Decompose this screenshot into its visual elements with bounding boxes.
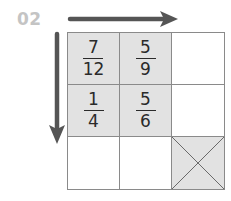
denominator: 4 bbox=[88, 111, 99, 130]
denominator: 6 bbox=[140, 111, 151, 130]
fraction: 5 9 bbox=[136, 39, 156, 79]
grid-cell-r1c3[interactable] bbox=[172, 33, 224, 85]
problem-number: 02 bbox=[17, 11, 42, 28]
fraction: 1 4 bbox=[84, 91, 104, 131]
grid-cell-r2c1: 1 4 bbox=[68, 85, 120, 137]
denominator: 12 bbox=[83, 59, 105, 78]
numerator: 1 bbox=[88, 91, 99, 110]
down-arrow-icon bbox=[49, 34, 65, 144]
right-arrow-icon bbox=[70, 11, 178, 27]
grid-cell-r2c2: 5 6 bbox=[120, 85, 172, 137]
grid-cell-r3c2[interactable] bbox=[120, 137, 172, 189]
fraction-grid: 7 12 5 9 1 4 5 6 bbox=[67, 32, 225, 190]
grid-cell-r2c3[interactable] bbox=[172, 85, 224, 137]
grid-cell-r3c1[interactable] bbox=[68, 137, 120, 189]
denominator: 9 bbox=[140, 59, 151, 78]
fraction: 5 6 bbox=[136, 91, 156, 131]
grid-cell-r1c2: 5 9 bbox=[120, 33, 172, 85]
cross-out-icon bbox=[172, 137, 224, 189]
numerator: 5 bbox=[140, 91, 151, 110]
numerator: 7 bbox=[88, 39, 99, 58]
grid-cell-r3c3 bbox=[172, 137, 224, 189]
fraction: 7 12 bbox=[83, 39, 105, 79]
grid-cell-r1c1: 7 12 bbox=[68, 33, 120, 85]
numerator: 5 bbox=[140, 39, 151, 58]
